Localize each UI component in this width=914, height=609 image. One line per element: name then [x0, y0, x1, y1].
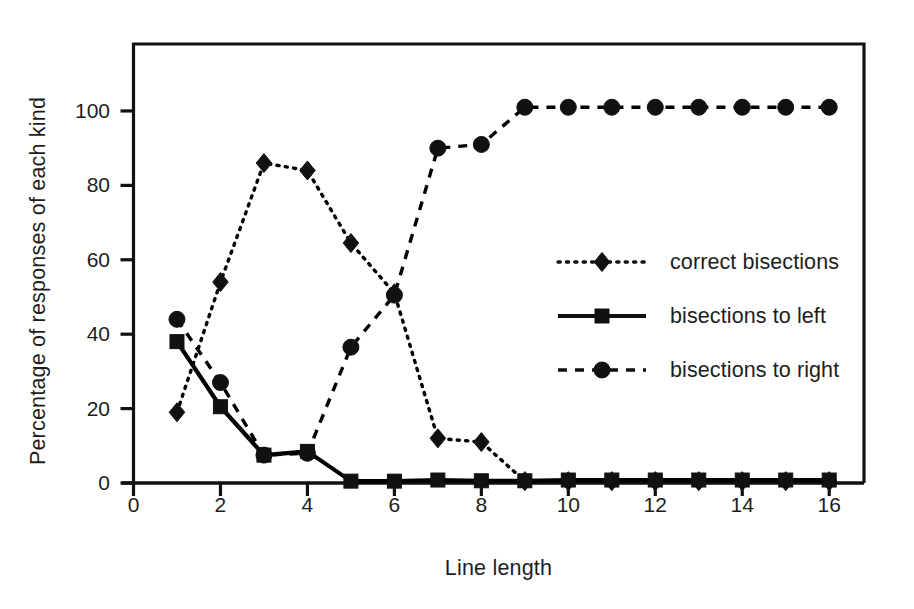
series-marker — [473, 136, 489, 152]
legend-marker-diamond-icon — [556, 250, 648, 274]
series-marker — [300, 161, 316, 180]
series-marker — [518, 474, 532, 488]
series-marker — [213, 400, 227, 414]
chart-legend: correct bisectionsbisections to leftbise… — [556, 235, 856, 397]
series-marker — [170, 335, 184, 349]
legend-label: bisections to right — [670, 358, 839, 382]
chart-figure: Percentage of responses of each kind Lin… — [0, 0, 914, 609]
series-marker — [431, 473, 445, 487]
series-marker — [647, 99, 663, 115]
series-marker — [560, 99, 576, 115]
series-marker — [213, 273, 229, 292]
series-marker — [474, 474, 488, 488]
series-marker — [256, 447, 272, 463]
series-marker — [386, 287, 402, 303]
series-marker — [169, 311, 185, 327]
series-marker — [692, 473, 706, 487]
legend-item: bisections to left — [556, 289, 856, 343]
series-marker — [735, 473, 749, 487]
legend-item: correct bisections — [556, 235, 856, 289]
series-marker — [779, 473, 793, 487]
series-marker — [517, 99, 533, 115]
series-marker — [343, 234, 359, 253]
series-marker — [344, 474, 358, 488]
series-marker — [821, 99, 837, 115]
series-marker — [691, 99, 707, 115]
series-marker — [387, 474, 401, 488]
series-marker — [561, 473, 575, 487]
series-marker — [430, 140, 446, 156]
legend-label: correct bisections — [670, 250, 839, 274]
legend-item: bisections to right — [556, 343, 856, 397]
series-marker — [430, 429, 446, 448]
series-marker — [648, 473, 662, 487]
legend-marker-circle-icon — [556, 358, 648, 382]
series-marker — [169, 403, 185, 422]
series-marker — [734, 99, 750, 115]
series-marker — [256, 154, 272, 173]
series-marker — [604, 99, 620, 115]
series-marker — [822, 473, 836, 487]
series-marker — [212, 375, 228, 391]
series-marker — [299, 445, 315, 461]
series-marker — [605, 473, 619, 487]
series-marker — [778, 99, 794, 115]
series-marker — [343, 339, 359, 355]
legend-label: bisections to left — [670, 304, 826, 328]
legend-marker-square-icon — [556, 304, 648, 328]
